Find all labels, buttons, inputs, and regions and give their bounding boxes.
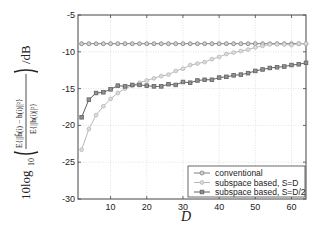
y-tick-label: -30	[62, 194, 75, 204]
y-label-prefix: 10log	[18, 170, 33, 200]
series-subspace-based-s-d	[80, 42, 308, 152]
y-label-unit: /dB	[18, 45, 33, 64]
legend: conventionalsubspace based, S=Dsubspace …	[188, 166, 306, 197]
x-axis-label: D	[180, 209, 191, 224]
y-tick-label: -25	[62, 157, 75, 167]
x-tick-label: 10	[106, 202, 116, 212]
y-label-sub: 10	[27, 158, 36, 166]
chart-canvas: -5-10-15-20-25-30 102030405060 10log 10 …	[0, 0, 321, 230]
y-label-numerator: E{||ĥ(i) − h(i)||²}	[14, 98, 24, 148]
legend-label: conventional	[215, 168, 263, 178]
y-tick-label: -5	[67, 10, 75, 20]
series-subspace-based-s-d-2	[80, 61, 308, 119]
legend-label: subspace based, S=D	[215, 178, 298, 188]
x-tick-label: 40	[214, 202, 224, 212]
x-tick-label: 50	[250, 202, 260, 212]
y-label-denominator: E{||h(i)||²}	[29, 103, 38, 134]
series-conventional	[80, 42, 308, 46]
y-axis-label: 10log 10 E{||ĥ(i) − h(i)||²} E{||h(i)||²…	[14, 45, 38, 200]
data-series	[80, 42, 308, 152]
left-paren	[14, 152, 38, 154]
y-tick-label: -15	[62, 84, 75, 94]
right-paren	[14, 70, 38, 72]
x-tick-label: 60	[287, 202, 297, 212]
legend-label: subspace based, S=D/2	[215, 187, 306, 197]
y-tick-label: -20	[62, 120, 75, 130]
y-tick-label: -10	[62, 47, 75, 57]
x-tick-label: 20	[142, 202, 152, 212]
